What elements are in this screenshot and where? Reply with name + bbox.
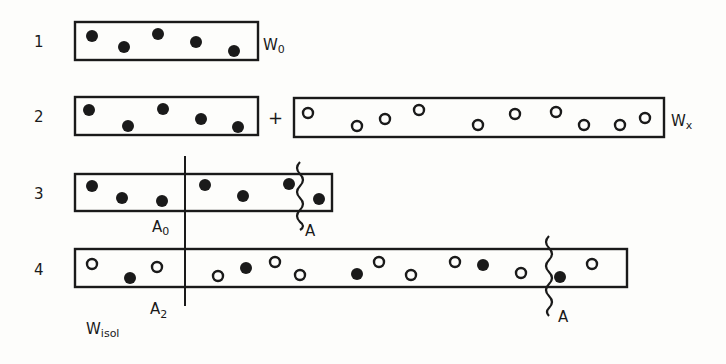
empty-particle-icon — [414, 105, 424, 115]
filled-particle-icon — [283, 178, 295, 190]
filled-particle-icon — [195, 113, 207, 125]
empty-particle-icon — [551, 107, 561, 117]
filled-particle-icon — [116, 192, 128, 204]
empty-particle-icon — [87, 259, 97, 269]
filled-particle-icon — [157, 103, 169, 115]
filled-particle-icon — [237, 190, 249, 202]
empty-particle-icon — [510, 109, 520, 119]
label-wisol: Wisol — [86, 320, 119, 340]
label-a-row3: A — [305, 222, 316, 240]
empty-particle-icon — [516, 268, 526, 278]
empty-particle-icon — [450, 257, 460, 267]
empty-particle-icon — [303, 108, 313, 118]
filled-particle-icon — [199, 179, 211, 191]
filled-particle-icon — [240, 262, 252, 274]
empty-particle-icon — [213, 271, 223, 281]
filled-particle-icon — [351, 268, 363, 280]
empty-particle-icon — [640, 113, 650, 123]
empty-particle-icon — [579, 120, 589, 130]
row-label-1: 1 — [34, 33, 44, 51]
filled-particle-icon — [86, 180, 98, 192]
filled-particle-icon — [232, 121, 244, 133]
plus-operator: + — [268, 107, 283, 128]
label-wx: Wx — [671, 112, 693, 132]
label-a2: A2 — [150, 300, 167, 321]
row-label-4: 4 — [34, 261, 44, 279]
filled-particle-icon — [477, 259, 489, 271]
filled-particle-icon — [554, 271, 566, 283]
filled-particle-icon — [124, 272, 136, 284]
empty-particle-icon — [587, 259, 597, 269]
empty-particle-icon — [374, 257, 384, 267]
dilution-diagram: 1 2 3 4 + W0 Wx A0 A A2 A Wisol — [0, 0, 726, 364]
filled-particle-icon — [190, 36, 202, 48]
filled-particle-icon — [122, 120, 134, 132]
empty-particle-icon — [352, 121, 362, 131]
empty-particle-icon — [152, 262, 162, 272]
empty-particle-icon — [615, 120, 625, 130]
filled-particle-icon — [118, 41, 130, 53]
empty-particle-icon — [380, 114, 390, 124]
filled-particle-icon — [313, 193, 325, 205]
row-label-3: 3 — [34, 185, 44, 203]
box-w0-copy — [75, 97, 258, 135]
label-a0: A0 — [152, 218, 169, 238]
filled-particle-icon — [228, 45, 240, 57]
box-wx — [294, 98, 664, 137]
label-w0: W0 — [263, 36, 285, 56]
filled-particle-icon — [86, 30, 98, 42]
empty-particle-icon — [270, 257, 280, 267]
filled-particle-icon — [156, 195, 168, 207]
particles-layer — [83, 28, 650, 284]
filled-particle-icon — [83, 104, 95, 116]
empty-particle-icon — [473, 120, 483, 130]
label-a-row4: A — [558, 308, 569, 326]
cut-wave-row3 — [297, 162, 303, 230]
row-label-2: 2 — [34, 108, 44, 126]
empty-particle-icon — [295, 270, 305, 280]
empty-particle-icon — [406, 270, 416, 280]
filled-particle-icon — [152, 28, 164, 40]
